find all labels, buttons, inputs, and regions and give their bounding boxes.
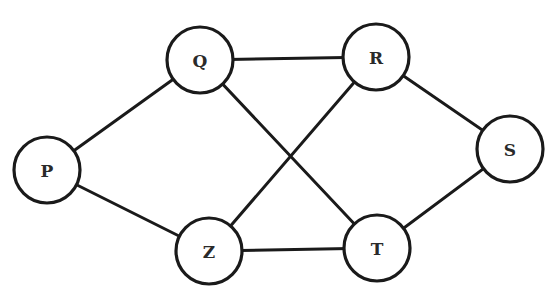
nodes-layer: PQRSZT [14, 24, 543, 284]
node-p: P [14, 137, 80, 203]
node-label: T [371, 239, 384, 259]
node-r: R [343, 24, 409, 90]
edges-layer [47, 57, 510, 251]
node-label: S [504, 140, 516, 160]
node-label: R [369, 48, 384, 68]
node-label: Z [203, 242, 215, 262]
node-z: Z [176, 218, 242, 284]
node-label: Q [193, 51, 208, 71]
node-label: P [41, 161, 54, 181]
graph-diagram: PQRSZT [0, 0, 557, 302]
node-s: S [477, 116, 543, 182]
node-t: T [344, 215, 410, 281]
node-q: Q [167, 27, 233, 93]
